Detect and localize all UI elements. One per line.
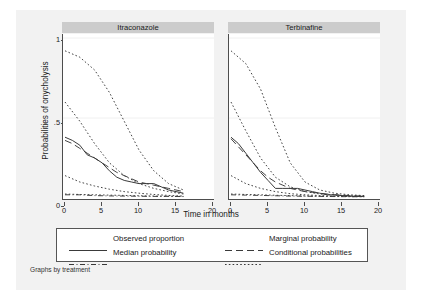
- plot-area: [62, 34, 214, 200]
- figure-canvas: 0.51 Probabilities of onycholysis Itraco…: [16, 10, 406, 290]
- panel-title: Terbinafine: [228, 22, 380, 33]
- plot-area: [228, 34, 380, 200]
- x-tick-mark: [64, 202, 65, 206]
- x-tick-mark: [267, 202, 268, 206]
- legend-label: Conditional probabilities: [269, 246, 352, 260]
- data-series-line: [65, 176, 183, 196]
- data-series-line: [231, 137, 364, 196]
- data-series-line: [231, 102, 364, 196]
- x-axis-title: Time in months: [16, 210, 406, 219]
- data-series-line: [65, 140, 183, 191]
- data-series-line: [231, 51, 364, 196]
- x-tick-mark: [304, 202, 305, 206]
- x-tick-mark: [230, 202, 231, 206]
- chart-panel: Terbinafine05101520: [228, 22, 380, 200]
- data-series-line: [231, 176, 364, 197]
- y-axis-title: Probabilities of onycholysis: [41, 36, 50, 186]
- data-series-line: [231, 139, 364, 196]
- legend-label: Median probability: [113, 246, 176, 260]
- legend-swatch: [69, 252, 107, 254]
- data-series-line: [65, 51, 183, 190]
- panel-title: Itraconazole: [62, 22, 214, 33]
- x-tick-mark: [175, 202, 176, 206]
- x-tick-mark: [341, 202, 342, 206]
- legend-swatch: [69, 238, 107, 240]
- data-series-line: [65, 137, 183, 193]
- x-tick-mark: [101, 202, 102, 206]
- x-tick-mark: [212, 202, 213, 206]
- x-tick-mark: [378, 202, 379, 206]
- legend: Observed proportionMarginal probabilityM…: [56, 228, 368, 262]
- legend-swatch: [225, 252, 263, 254]
- figure-note: Graphs by treatment: [30, 266, 90, 273]
- x-tick-mark: [138, 202, 139, 206]
- legend-label: Observed proportion: [113, 232, 184, 246]
- legend-swatch: [225, 238, 263, 240]
- legend-label: Marginal probability: [269, 232, 337, 246]
- chart-panel: Itraconazole05101520: [62, 22, 214, 200]
